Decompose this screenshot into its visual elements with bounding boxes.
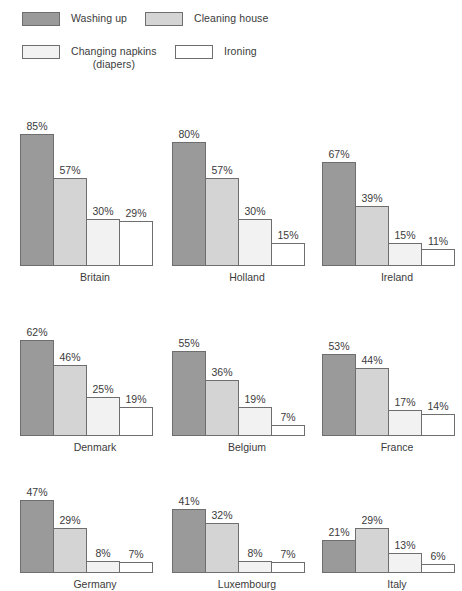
bar[interactable] xyxy=(119,221,153,266)
bar-value-label: 36% xyxy=(211,366,232,378)
legend-item-washing-up: Washing up xyxy=(22,12,127,26)
cluster-category-label: Germany xyxy=(20,577,170,591)
bar-group: 11% xyxy=(421,249,455,266)
bar[interactable] xyxy=(421,414,455,436)
bar-value-label: 7% xyxy=(280,548,295,560)
bar-value-label: 13% xyxy=(394,539,415,551)
bar-cluster: 21%29%13%6%Italy xyxy=(322,447,462,591)
bar-group: 55% xyxy=(172,351,206,436)
bar-value-label: 46% xyxy=(59,351,80,363)
legend-label-washing-up: Washing up xyxy=(71,12,127,25)
bar-group: 17% xyxy=(388,410,422,436)
bar[interactable] xyxy=(119,407,153,436)
bar[interactable] xyxy=(86,561,120,573)
bar-value-label: 21% xyxy=(328,526,349,538)
bar[interactable] xyxy=(20,500,54,573)
bar-group: 36% xyxy=(205,380,239,436)
bar-cluster: 67%39%15%11%Ireland xyxy=(322,92,462,284)
bar-value-label: 55% xyxy=(178,337,199,349)
bar[interactable] xyxy=(205,380,239,436)
bar-cluster: 47%29%8%7%Germany xyxy=(20,447,170,591)
bar-cluster: 85%57%30%29%Britain xyxy=(20,92,170,284)
bar-group: 29% xyxy=(53,528,87,573)
legend-swatch-ironing xyxy=(175,45,213,59)
bar-cluster: 80%57%30%15%Holland xyxy=(172,92,322,284)
bar[interactable] xyxy=(119,562,153,573)
bar[interactable] xyxy=(86,397,120,436)
bar[interactable] xyxy=(355,528,389,573)
bar-group: 85% xyxy=(20,134,54,266)
bar-group: 80% xyxy=(172,142,206,266)
bar[interactable] xyxy=(53,365,87,436)
cluster-plot: 80%57%30%15% xyxy=(172,126,322,266)
bar[interactable] xyxy=(421,564,455,573)
bar[interactable] xyxy=(238,219,272,266)
bar-group: 44% xyxy=(355,368,389,436)
bar[interactable] xyxy=(271,425,305,436)
bar[interactable] xyxy=(53,178,87,266)
bar[interactable] xyxy=(388,410,422,436)
bar-value-label: 25% xyxy=(92,383,113,395)
bar-group: 21% xyxy=(322,540,356,573)
bar[interactable] xyxy=(355,206,389,266)
bar[interactable] xyxy=(388,243,422,266)
legend-label-ironing: Ironing xyxy=(224,45,257,58)
bar[interactable] xyxy=(172,509,206,573)
bar-group: 57% xyxy=(205,178,239,266)
bar[interactable] xyxy=(238,561,272,573)
bar-value-label: 11% xyxy=(428,235,448,247)
bar[interactable] xyxy=(388,553,422,573)
bar-cluster: 55%36%19%7%Belgium xyxy=(172,282,322,454)
legend-label-changing-napkins: Changing napkins (diapers) xyxy=(71,45,157,71)
cluster-plot: 21%29%13%6% xyxy=(322,481,462,573)
bar-cluster: 53%44%17%14%France xyxy=(322,282,462,454)
bar[interactable] xyxy=(205,178,239,266)
bar[interactable] xyxy=(172,351,206,436)
bar-value-label: 53% xyxy=(328,340,349,352)
bar[interactable] xyxy=(172,142,206,266)
bar-group: 32% xyxy=(205,523,239,573)
bar-group: 6% xyxy=(421,564,455,573)
bar[interactable] xyxy=(322,354,356,436)
bar[interactable] xyxy=(355,368,389,436)
cluster-plot: 41%32%8%7% xyxy=(172,481,322,573)
bar-value-label: 29% xyxy=(59,514,80,526)
bar-group: 67% xyxy=(322,162,356,266)
bar-group: 15% xyxy=(271,243,305,266)
bar-value-label: 44% xyxy=(361,354,382,366)
bar-group: 30% xyxy=(86,219,120,266)
bar[interactable] xyxy=(53,528,87,573)
bar-group: 15% xyxy=(388,243,422,266)
cluster-plot: 55%36%19%7% xyxy=(172,316,322,436)
bar-group: 7% xyxy=(271,425,305,436)
cluster-plot: 85%57%30%29% xyxy=(20,126,170,266)
bar[interactable] xyxy=(20,134,54,266)
bar-value-label: 19% xyxy=(244,393,265,405)
bar[interactable] xyxy=(322,162,356,266)
bar-value-label: 30% xyxy=(244,205,265,217)
bar-group: 29% xyxy=(119,221,153,266)
cluster-plot: 67%39%15%11% xyxy=(322,126,462,266)
bar-cluster: 62%46%25%19%Denmark xyxy=(20,282,170,454)
legend-label-cleaning-house: Cleaning house xyxy=(194,12,268,25)
bar-value-label: 47% xyxy=(26,486,47,498)
bar-value-label: 29% xyxy=(361,514,382,526)
bar[interactable] xyxy=(421,249,455,266)
bar[interactable] xyxy=(271,562,305,573)
bar-value-label: 80% xyxy=(178,128,199,140)
cluster-plot: 53%44%17%14% xyxy=(322,316,462,436)
bar[interactable] xyxy=(322,540,356,573)
bar[interactable] xyxy=(20,340,54,436)
bar[interactable] xyxy=(271,243,305,266)
bar-group: 25% xyxy=(86,397,120,436)
bar[interactable] xyxy=(86,219,120,266)
bar-group: 7% xyxy=(119,562,153,573)
bar-value-label: 15% xyxy=(394,229,415,241)
bar[interactable] xyxy=(205,523,239,573)
bar[interactable] xyxy=(238,407,272,436)
bar-value-label: 14% xyxy=(427,400,448,412)
legend-item-ironing: Ironing xyxy=(175,45,257,59)
chart-legend: Washing up Cleaning house Changing napki… xyxy=(0,0,462,92)
cluster-category-label: Luxembourg xyxy=(172,577,322,591)
bar-group: 62% xyxy=(20,340,54,436)
